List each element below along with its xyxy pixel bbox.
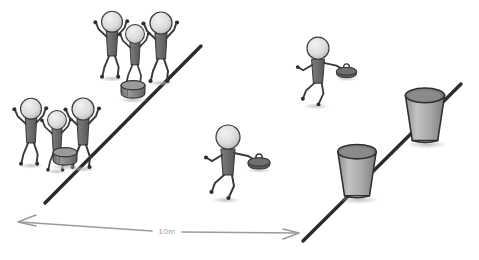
dimension-arrow: 10m xyxy=(18,215,299,239)
dimension-label: 10m xyxy=(159,227,176,236)
stick-figure-cheering xyxy=(12,98,48,168)
bucket-upper xyxy=(405,88,447,149)
runner-lower xyxy=(204,125,271,203)
arrow-right-icon xyxy=(283,229,299,239)
illustration-canvas: 10m xyxy=(0,0,479,260)
lower-cheering-group xyxy=(12,98,101,174)
upper-cheering-group xyxy=(93,11,179,103)
arrow-left-icon xyxy=(18,215,36,226)
curling-stone-lower-group xyxy=(50,148,79,171)
stick-figure-cheering xyxy=(93,11,129,81)
bucket-lower xyxy=(338,144,379,204)
scene-svg: 10m xyxy=(0,0,479,260)
curling-stone-upper-group xyxy=(118,81,147,104)
runner-upper xyxy=(296,37,358,109)
